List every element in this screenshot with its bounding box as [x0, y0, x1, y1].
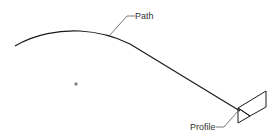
- profile-leader-line: [216, 111, 238, 127]
- path-label: Path: [135, 11, 154, 21]
- profile-shape: [238, 91, 266, 123]
- profile-parallelogram: [238, 91, 266, 116]
- path-leader-line: [110, 16, 135, 35]
- profile-label: Profile: [190, 122, 216, 132]
- drawing-canvas: Path Profile: [0, 0, 276, 139]
- path-curve: [15, 31, 240, 111]
- origin-marker-icon: [74, 82, 78, 86]
